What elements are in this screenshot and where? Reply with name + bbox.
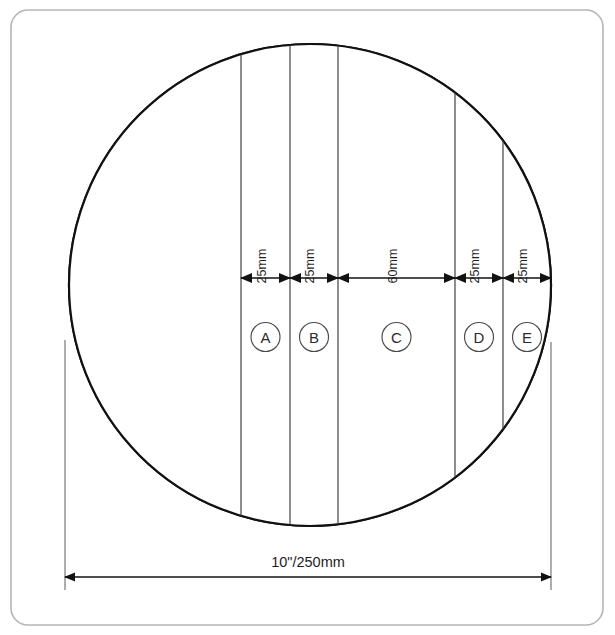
disc-dimension-diagram: 25mm25mm60mm25mm25mm ABCDE 10"/250mm <box>0 0 615 635</box>
zone-letter-A[interactable]: A <box>251 323 280 352</box>
diagram-canvas: 25mm25mm60mm25mm25mm ABCDE 10"/250mm <box>0 0 615 635</box>
zone-letter-text-E: E <box>522 329 532 346</box>
zone-letter-text-B: B <box>309 329 319 346</box>
zone-letter-text-D: D <box>474 329 485 346</box>
zone-letter-B[interactable]: B <box>300 323 329 352</box>
zone-letter-text-C: C <box>391 329 402 346</box>
dimension-label-zone-C: 60mm <box>386 249 400 284</box>
zone-letter-D[interactable]: D <box>465 323 494 352</box>
zone-letter-C[interactable]: C <box>382 323 411 352</box>
disc-outline-overlay <box>69 44 551 526</box>
dimension-label-zone-D: 25mm <box>468 249 482 284</box>
dimension-label-zone-E: 25mm <box>516 249 530 284</box>
overall-dimension-label: 10"/250mm <box>271 554 345 570</box>
dimension-label-zone-A: 25mm <box>255 249 269 284</box>
zone-letter-text-A: A <box>260 329 270 346</box>
dimension-label-zone-B: 25mm <box>303 249 317 284</box>
zone-letter-E[interactable]: E <box>513 323 542 352</box>
